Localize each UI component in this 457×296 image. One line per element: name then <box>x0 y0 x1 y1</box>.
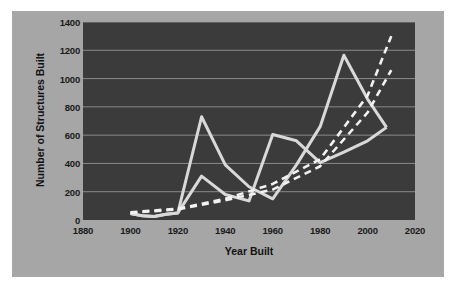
y-axis-tick-1000: 1000 <box>60 73 80 84</box>
y-axis-tick-1200: 1200 <box>60 45 80 56</box>
x-axis-tick-1900: 1900 <box>120 225 140 236</box>
x-axis-tick-1920: 1920 <box>168 225 188 236</box>
series-1-solid-upper <box>130 55 386 216</box>
x-axis-tick-2020: 2020 <box>405 225 425 236</box>
plot-svg <box>83 22 415 220</box>
y-axis-tick-1400: 1400 <box>60 17 80 28</box>
x-axis-tick-1960: 1960 <box>263 225 283 236</box>
y-axis-tick-labels: 0200400600800100012001400 <box>30 22 80 220</box>
x-axis-tick-1880: 1880 <box>73 225 93 236</box>
y-axis-tick-0: 0 <box>75 215 80 226</box>
y-axis-tick-600: 600 <box>65 130 80 141</box>
x-axis-tick-labels: 18801900192019401960198020002020 <box>83 225 415 241</box>
plot-area <box>83 22 415 220</box>
series-2-solid-lower <box>130 127 386 216</box>
y-axis-tick-400: 400 <box>65 158 80 169</box>
chart-page: Number of Structures Built 0200400600800… <box>0 0 457 296</box>
x-axis-title: Year Built <box>83 245 415 257</box>
x-axis-tick-1980: 1980 <box>310 225 330 236</box>
x-axis-tick-2000: 2000 <box>357 225 377 236</box>
y-axis-tick-200: 200 <box>65 186 80 197</box>
x-axis-tick-1940: 1940 <box>215 225 235 236</box>
chart-panel: Number of Structures Built 0200400600800… <box>12 11 444 277</box>
y-axis-tick-800: 800 <box>65 101 80 112</box>
trend-1-dashed <box>130 36 391 212</box>
